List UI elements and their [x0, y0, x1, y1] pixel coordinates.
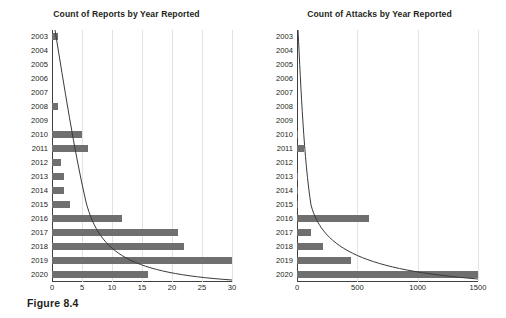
bar-reports-2020	[52, 271, 148, 278]
bar-reports-2008	[52, 103, 58, 110]
bar-rows-reports	[52, 30, 232, 282]
y-tick-label-reports-2017: 2017	[10, 226, 48, 240]
bar-row-reports-2010	[52, 128, 232, 142]
x-axis-labels-attacks: 050010001500	[297, 283, 478, 295]
bar-attacks-2015	[297, 201, 298, 208]
y-tick-label-reports-2012: 2012	[10, 156, 48, 170]
chart-title-reports: Count of Reports by Year Reported	[0, 9, 253, 19]
bar-row-attacks-2019	[297, 254, 478, 268]
bar-row-attacks-2004	[297, 44, 478, 58]
y-tick-label-reports-2016: 2016	[10, 212, 48, 226]
bar-row-reports-2009	[52, 114, 232, 128]
x-tick-label-attacks-1500: 1500	[470, 283, 487, 292]
y-tick-label-attacks-2013: 2013	[255, 170, 293, 184]
bar-reports-2017	[52, 229, 178, 236]
y-tick-label-attacks-2005: 2005	[255, 58, 293, 72]
y-axis-labels-reports: 2003200420052006200720082009201020112012…	[10, 30, 48, 282]
bar-row-attacks-2003	[297, 30, 478, 44]
y-tick-label-attacks-2004: 2004	[255, 44, 293, 58]
y-tick-label-attacks-2007: 2007	[255, 86, 293, 100]
bar-reports-2003	[52, 33, 58, 40]
bar-attacks-2018	[297, 243, 323, 250]
y-tick-label-attacks-2020: 2020	[255, 268, 293, 282]
y-tick-label-reports-2005: 2005	[10, 58, 48, 72]
bar-row-reports-2019	[52, 254, 232, 268]
y-tick-label-reports-2011: 2011	[10, 142, 48, 156]
y-tick-label-attacks-2016: 2016	[255, 212, 293, 226]
figure-page: Count of Reports by Year Reported 200320…	[0, 0, 506, 318]
bar-row-attacks-2009	[297, 114, 478, 128]
bar-row-reports-2015	[52, 198, 232, 212]
y-tick-label-attacks-2003: 2003	[255, 30, 293, 44]
bar-row-attacks-2018	[297, 240, 478, 254]
y-tick-label-attacks-2018: 2018	[255, 240, 293, 254]
bar-row-reports-2004	[52, 44, 232, 58]
bar-row-attacks-2011	[297, 142, 478, 156]
bar-reports-2010	[52, 131, 82, 138]
y-tick-label-reports-2020: 2020	[10, 268, 48, 282]
x-tick-label-attacks-1000: 1000	[409, 283, 426, 292]
bar-attacks-2013	[297, 173, 298, 180]
chart-count-of-attacks: Count of Attacks by Year Reported 200320…	[253, 0, 506, 295]
bar-row-reports-2018	[52, 240, 232, 254]
y-axis-labels-attacks: 2003200420052006200720082009201020112012…	[255, 30, 293, 282]
bar-row-reports-2016	[52, 212, 232, 226]
bar-attacks-2017	[297, 229, 311, 236]
bar-attacks-2020	[297, 271, 478, 278]
x-tick-label-reports-25: 25	[198, 283, 206, 292]
bar-row-attacks-2020	[297, 268, 478, 282]
bar-row-reports-2003	[52, 30, 232, 44]
bar-row-attacks-2005	[297, 58, 478, 72]
bar-row-reports-2006	[52, 72, 232, 86]
y-tick-label-attacks-2011: 2011	[255, 142, 293, 156]
bar-row-attacks-2012	[297, 156, 478, 170]
bar-row-attacks-2007	[297, 86, 478, 100]
y-tick-label-reports-2015: 2015	[10, 198, 48, 212]
y-tick-label-attacks-2009: 2009	[255, 114, 293, 128]
y-tick-label-attacks-2012: 2012	[255, 156, 293, 170]
gridline-30	[232, 30, 233, 282]
y-tick-label-reports-2003: 2003	[10, 30, 48, 44]
y-tick-label-reports-2010: 2010	[10, 128, 48, 142]
bar-reports-2016	[52, 215, 122, 222]
bar-row-attacks-2015	[297, 198, 478, 212]
bar-reports-2011	[52, 145, 88, 152]
bar-row-attacks-2010	[297, 128, 478, 142]
y-tick-label-reports-2008: 2008	[10, 100, 48, 114]
bar-row-reports-2012	[52, 156, 232, 170]
bar-attacks-2014	[297, 187, 298, 194]
bar-row-reports-2007	[52, 86, 232, 100]
bar-row-reports-2008	[52, 100, 232, 114]
x-tick-label-reports-20: 20	[168, 283, 176, 292]
bar-attacks-2019	[297, 257, 351, 264]
bar-reports-2015	[52, 201, 70, 208]
bar-reports-2012	[52, 159, 61, 166]
bar-row-attacks-2016	[297, 212, 478, 226]
y-tick-label-reports-2006: 2006	[10, 72, 48, 86]
y-tick-label-reports-2007: 2007	[10, 86, 48, 100]
x-tick-label-reports-10: 10	[108, 283, 116, 292]
bar-reports-2013	[52, 173, 64, 180]
y-tick-label-attacks-2015: 2015	[255, 198, 293, 212]
bar-row-reports-2011	[52, 142, 232, 156]
y-tick-label-reports-2013: 2013	[10, 170, 48, 184]
y-tick-label-attacks-2014: 2014	[255, 184, 293, 198]
x-tick-label-reports-5: 5	[80, 283, 84, 292]
y-tick-label-reports-2019: 2019	[10, 254, 48, 268]
x-tick-label-reports-15: 15	[138, 283, 146, 292]
bar-row-reports-2017	[52, 226, 232, 240]
figure-caption: Figure 8.4	[27, 297, 79, 309]
y-tick-label-reports-2004: 2004	[10, 44, 48, 58]
bar-row-attacks-2017	[297, 226, 478, 240]
y-tick-label-reports-2018: 2018	[10, 240, 48, 254]
x-tick-label-reports-30: 30	[228, 283, 236, 292]
plot-area-attacks	[297, 30, 478, 282]
y-tick-label-attacks-2010: 2010	[255, 128, 293, 142]
bar-row-reports-2014	[52, 184, 232, 198]
plot-area-reports	[52, 30, 232, 282]
x-axis-labels-reports: 051015202530	[52, 283, 232, 295]
bar-attacks-2011	[297, 145, 304, 152]
bar-attacks-2016	[297, 215, 369, 222]
bar-reports-2014	[52, 187, 64, 194]
y-tick-label-attacks-2006: 2006	[255, 72, 293, 86]
